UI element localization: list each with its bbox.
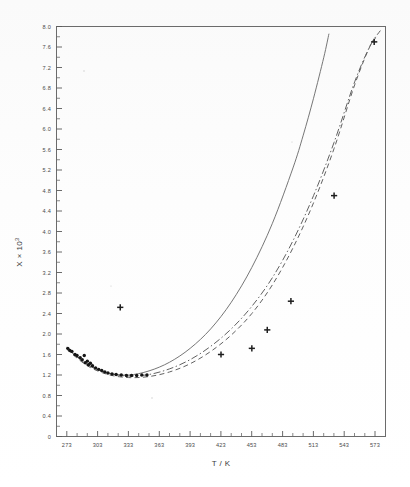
data-series-layer [67,31,381,378]
data-point-dot [106,371,109,374]
y-tick-label: 2.0 [43,331,51,337]
y-tick-label: 6.0 [43,126,51,132]
x-tick-label: 393 [185,442,195,448]
model-curve-dashed [67,37,377,378]
plus-marker [288,298,294,304]
y-axis: 8.0 7.6 7.2 6.8 6.4 6.0 5.6 5.2 4.8 4.4 … [14,24,62,440]
y-tick-label: 0.4 [43,413,51,419]
x-tick-label: 273 [62,442,72,448]
model-curve-solid [67,34,329,375]
plus-marker [249,345,255,351]
plus-marker [331,193,337,199]
data-point-dot [140,373,143,376]
data-point-dot [83,354,86,357]
y-tick-label: 2.4 [43,311,51,317]
data-point-dot [114,373,117,376]
y-tick-label: 5.6 [43,147,51,153]
model-curve-dash-dot [67,31,381,376]
x-tick-label: 513 [308,442,318,448]
plus-marker [371,39,377,45]
svg-text:X × 103: X × 103 [14,237,24,266]
plus-marker [218,351,224,357]
data-point-dot [120,373,123,376]
data-point-dot [97,368,100,371]
data-point-dot [135,374,138,377]
x-axis-title: T / K [212,459,231,468]
data-point-dot [100,369,103,372]
y-tick-label: 5.2 [43,167,51,173]
x-tick-label: 573 [370,442,380,448]
y-tick-label: 1.2 [43,372,51,378]
y-axis-title: X × 103 [14,237,24,266]
x-tick-label: 303 [93,442,103,448]
y-tick-label: 4.0 [43,229,51,235]
y-tick-label: 8.0 [43,24,51,30]
y-tick-label: 2.8 [43,290,51,296]
y-tick-label: 7.2 [43,65,51,71]
y-tick-label: 6.4 [43,106,51,112]
x-tick-label: 363 [154,442,164,448]
plus-marker [264,327,270,333]
data-point-dot [75,354,78,357]
data-point-dot [110,372,113,375]
data-point-dot [94,366,97,369]
x-tick-label: 333 [123,442,133,448]
y-tick-label: 4.8 [43,188,51,194]
figure-canvas: 8.0 7.6 7.2 6.8 6.4 6.0 5.6 5.2 4.8 4.4 … [0,0,410,487]
y-axis-title-exponent: 3 [14,237,20,241]
x-tick-label: 453 [247,442,257,448]
y-tick-label: 0 [48,434,51,440]
x-tick-label: 483 [278,442,288,448]
plus-marker [117,304,123,310]
x-axis-tick-labels: 273 303 333 363 393 423 453 483 513 543 … [62,442,380,448]
data-point-dot [145,373,148,376]
y-tick-label: 3.2 [43,270,51,276]
data-point-dot [70,350,73,353]
plot-frame [57,27,386,437]
data-point-dot [91,364,94,367]
chart-plot-area: 8.0 7.6 7.2 6.8 6.4 6.0 5.6 5.2 4.8 4.4 … [0,0,410,487]
data-point-dot [103,370,106,373]
scan-artifacts [83,70,292,398]
y-tick-label: 4.4 [43,208,51,214]
y-tick-label: 6.8 [43,85,51,91]
y-tick-label: 1.6 [43,352,51,358]
y-axis-tick-labels: 8.0 7.6 7.2 6.8 6.4 6.0 5.6 5.2 4.8 4.4 … [43,24,51,440]
x-tick-label: 543 [339,442,349,448]
y-axis-major-ticks [57,27,63,437]
data-point-dot [130,374,133,377]
y-axis-title-text: X × 10 [15,241,24,267]
y-tick-label: 0.8 [43,393,51,399]
y-tick-label: 3.6 [43,249,51,255]
x-axis-major-ticks [67,431,375,437]
x-tick-label: 423 [216,442,226,448]
y-tick-label: 7.6 [43,44,51,50]
data-point-dot [86,359,89,362]
data-point-dot [81,358,84,361]
data-scatter-layer [66,39,377,377]
data-point-dot [125,374,128,377]
